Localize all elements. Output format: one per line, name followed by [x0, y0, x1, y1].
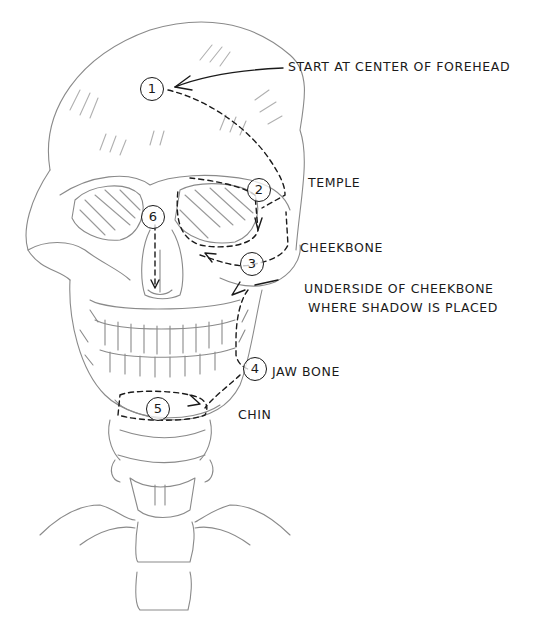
step-marker-5: 5	[146, 397, 170, 421]
step-marker-3: 3	[240, 252, 264, 276]
label-temple: TEMPLE	[308, 174, 360, 191]
pointer-arrow	[175, 68, 283, 87]
cranium-outline	[48, 22, 304, 250]
guide-path-eye-loop	[177, 178, 258, 247]
step-marker-1: 1	[140, 77, 164, 101]
guide-path-jaw-to-chin	[205, 375, 240, 408]
step-marker-6: 6	[141, 205, 165, 229]
label-cheekbone: CHEEKBONE	[300, 239, 383, 256]
label-chin: CHIN	[238, 406, 272, 423]
cervical-vertebrae	[109, 420, 212, 460]
step-marker-4: 4	[243, 357, 267, 381]
right-eye-socket	[175, 184, 258, 243]
step-marker-2: 2	[247, 178, 271, 202]
label-underside-line1: UNDERSIDE OF CHEEKBONE	[304, 280, 494, 297]
label-jaw-bone: JAW BONE	[272, 363, 340, 380]
label-start: START AT CENTER OF FOREHEAD	[288, 58, 510, 75]
label-underside-line2: WHERE SHADOW IS PLACED	[308, 299, 498, 316]
nasal-cavity	[142, 230, 183, 299]
